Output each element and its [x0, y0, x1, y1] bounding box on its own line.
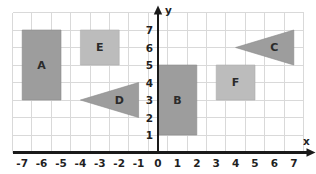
y-tick-label: 6: [146, 42, 153, 54]
y-tick-label: 4: [146, 77, 153, 89]
x-tick-label: -4: [75, 157, 87, 169]
x-axis-arrow-icon: [307, 148, 316, 156]
x-tick-label: -5: [55, 157, 67, 169]
shape-label-f: F: [232, 76, 240, 89]
x-tick-label: -2: [113, 157, 125, 169]
x-tick-label: 4: [232, 157, 239, 169]
y-axis-label: y: [165, 4, 172, 16]
coordinate-plane: AEDBFC -7-6-5-4-3-2-1012345671234567xy: [0, 0, 316, 174]
x-tick-label: 0: [154, 157, 161, 169]
x-tick-label: 1: [174, 157, 181, 169]
shape-label-e: E: [96, 41, 104, 54]
y-tick-label: 5: [146, 59, 153, 71]
shape-label-a: A: [37, 59, 46, 72]
x-tick-label: 7: [290, 157, 297, 169]
x-tick-label: -7: [16, 157, 28, 169]
x-tick-label: 2: [193, 157, 200, 169]
y-tick-label: 1: [146, 129, 153, 141]
y-tick-label: 3: [146, 94, 153, 106]
x-axis-label: x: [303, 135, 310, 147]
y-axis-arrow-icon: [154, 6, 162, 15]
x-tick-label: -6: [36, 157, 48, 169]
y-tick-label: 7: [146, 24, 153, 36]
shape-label-d: D: [115, 94, 124, 107]
x-tick-label: -1: [133, 157, 145, 169]
x-tick-label: 6: [271, 157, 278, 169]
shape-label-c: C: [270, 41, 278, 54]
y-tick-label: 2: [146, 112, 153, 124]
x-tick-label: 5: [251, 157, 258, 169]
x-tick-label: 3: [213, 157, 220, 169]
coordinate-grid-figure: AEDBFC -7-6-5-4-3-2-1012345671234567xy: [0, 0, 316, 174]
shape-label-b: B: [173, 94, 181, 107]
x-tick-label: -3: [94, 157, 106, 169]
